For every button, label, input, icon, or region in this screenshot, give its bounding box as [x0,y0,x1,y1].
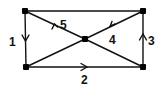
edge-label-4: 4 [109,33,116,47]
node-top-right [140,8,146,14]
edge-1-left [25,11,26,67]
edge-label-3: 3 [148,34,155,48]
edge-label-1: 1 [9,35,16,49]
edge-label-2: 2 [81,73,88,87]
graph-svg: 1 2 3 4 5 [0,0,163,88]
node-bottom-right [140,64,146,70]
node-center [82,36,88,42]
node-top-left [22,8,28,14]
arrow-down-left-icon [110,22,115,27]
edge-center-bottom-left [26,39,85,67]
edge-label-5: 5 [60,18,67,32]
node-bottom-left [23,64,29,70]
graph-diagram: 1 2 3 4 5 [0,0,163,88]
